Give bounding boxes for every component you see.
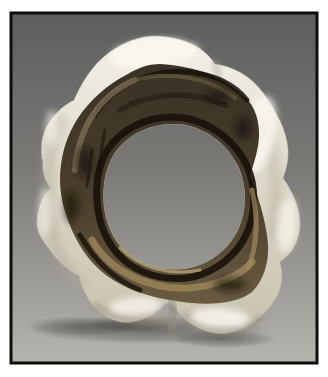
band-blotch-3 <box>77 147 93 177</box>
left-lobe-sheen <box>38 188 52 236</box>
band-blotch-2 <box>235 117 251 139</box>
dome-hotspot <box>173 43 199 55</box>
photo-print <box>0 0 328 377</box>
upper-left-lobe-sheen <box>45 110 59 146</box>
band-blotch-5 <box>214 278 246 292</box>
band-blotch-1 <box>207 90 229 102</box>
band-blotch-4 <box>64 191 78 223</box>
